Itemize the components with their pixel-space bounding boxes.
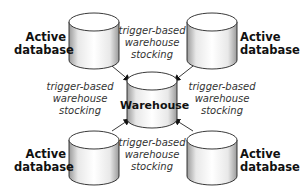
edge-label-left: trigger-based warehouse stocking <box>40 81 120 117</box>
db-label-bottom-right: Active database <box>240 148 300 174</box>
db-label-bottom-left: Active database <box>14 148 66 174</box>
edge-label-line3: stocking <box>182 105 262 117</box>
cylinder-top-right <box>187 13 237 69</box>
edge-label-line1: trigger-based <box>112 137 192 149</box>
edge-label-line1: trigger-based <box>112 25 192 37</box>
edge-label-bottom: trigger-based warehouse stocking <box>112 137 192 173</box>
db-label-line2: database <box>240 161 300 174</box>
edge-label-line1: trigger-based <box>40 81 120 93</box>
db-label-line2: database <box>14 161 66 174</box>
edge-label-line2: warehouse <box>40 93 120 105</box>
cylinder-bottom-right <box>187 131 237 185</box>
edge-label-line3: stocking <box>112 161 192 173</box>
edge-label-line3: stocking <box>112 49 192 61</box>
edge-label-line3: stocking <box>40 105 120 117</box>
arrow-top-right <box>174 66 193 81</box>
db-label-line2: database <box>240 44 300 57</box>
warehouse-label: Warehouse <box>120 100 184 112</box>
edge-label-right: trigger-based warehouse stocking <box>182 81 262 117</box>
db-label-top-right: Active database <box>240 31 300 57</box>
db-label-line2: database <box>14 44 66 57</box>
edge-label-line2: warehouse <box>112 149 192 161</box>
edge-label-top: trigger-based warehouse stocking <box>112 25 192 61</box>
db-label-top-left: Active database <box>14 31 66 57</box>
edge-label-line2: warehouse <box>182 93 262 105</box>
edge-label-line1: trigger-based <box>182 81 262 93</box>
edge-label-line2: warehouse <box>112 37 192 49</box>
